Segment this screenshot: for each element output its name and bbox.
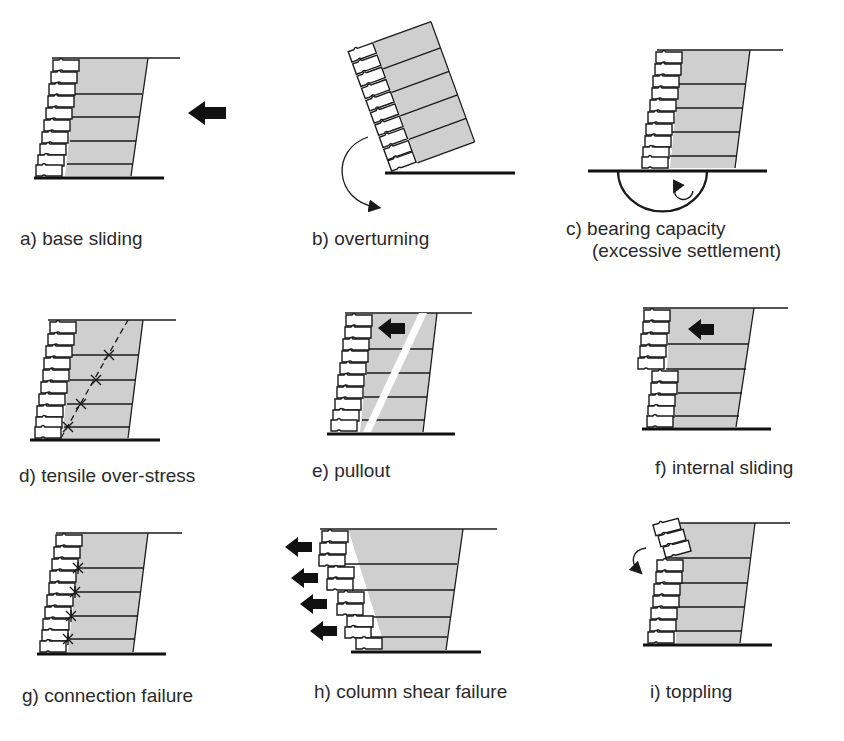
caption-i: i) toppling [650, 681, 732, 703]
panel-e-pullout [327, 313, 472, 434]
caption-c-line1: c) bearing capacity [566, 218, 725, 240]
rotation-arrow-icon [633, 548, 646, 570]
panel-b-overturning [342, 20, 515, 207]
caption-g: g) connection failure [22, 685, 193, 707]
arrow-left-icon [285, 537, 312, 557]
arrow-left-icon [188, 101, 226, 125]
caption-d: d) tensile over-stress [19, 465, 195, 487]
panel-g-connection-failure [37, 533, 182, 654]
slip-circle [618, 171, 707, 211]
arrow-left-icon [291, 568, 318, 588]
caption-h: h) column shear failure [314, 681, 507, 703]
caption-b: b) overturning [312, 228, 429, 250]
rotation-arrow-icon [342, 137, 375, 207]
panel-f-internal-sliding [638, 308, 788, 429]
caption-a: a) base sliding [20, 228, 143, 250]
toppled-blocks [653, 516, 691, 559]
panel-d-tensile-over-stress [30, 320, 176, 440]
caption-e: e) pullout [312, 460, 390, 482]
panel-h-column-shear-failure [285, 529, 497, 652]
arrow-left-icon [310, 621, 337, 641]
panel-a-base-sliding [34, 58, 226, 178]
rotation-arrow-icon [675, 188, 693, 199]
caption-c-line2: (excessive settlement) [592, 240, 781, 262]
panel-i-toppling [633, 516, 790, 645]
failure-modes-diagram [0, 0, 844, 741]
caption-f: f) internal sliding [655, 457, 793, 479]
panel-c-bearing-capacity [588, 50, 783, 211]
arrow-left-icon [300, 594, 327, 614]
